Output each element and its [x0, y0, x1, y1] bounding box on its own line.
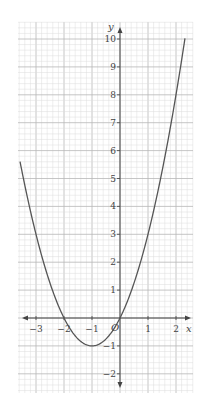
y-tick-label: 1: [110, 285, 116, 295]
x-tick-label: −3: [29, 324, 43, 334]
y-tick-label: −1: [103, 341, 116, 351]
x-axis-label: x: [186, 323, 192, 334]
y-tick-label: 9: [110, 62, 116, 72]
x-tick-label: 2: [173, 324, 179, 334]
y-tick-label: 6: [110, 146, 116, 156]
parabola-chart: −3−2−112−2−112345678910 x y O: [0, 0, 200, 405]
grid: [18, 22, 193, 393]
y-tick-label: 2: [110, 257, 116, 267]
y-tick-label: −2: [103, 369, 116, 379]
y-tick-label: 8: [110, 90, 116, 100]
y-axis-label: y: [107, 21, 114, 32]
x-tick-label: −1: [85, 324, 98, 334]
y-tick-label: 4: [110, 201, 116, 211]
x-tick-label: 1: [145, 324, 151, 334]
x-axis-right-arrow-icon: [185, 316, 191, 321]
parabola-curve: [20, 38, 185, 346]
y-tick-label: 10: [105, 34, 117, 44]
y-tick-label: 7: [110, 118, 116, 128]
origin-label: O: [111, 322, 119, 333]
y-tick-label: 3: [110, 229, 116, 239]
y-tick-label: 5: [110, 174, 116, 184]
